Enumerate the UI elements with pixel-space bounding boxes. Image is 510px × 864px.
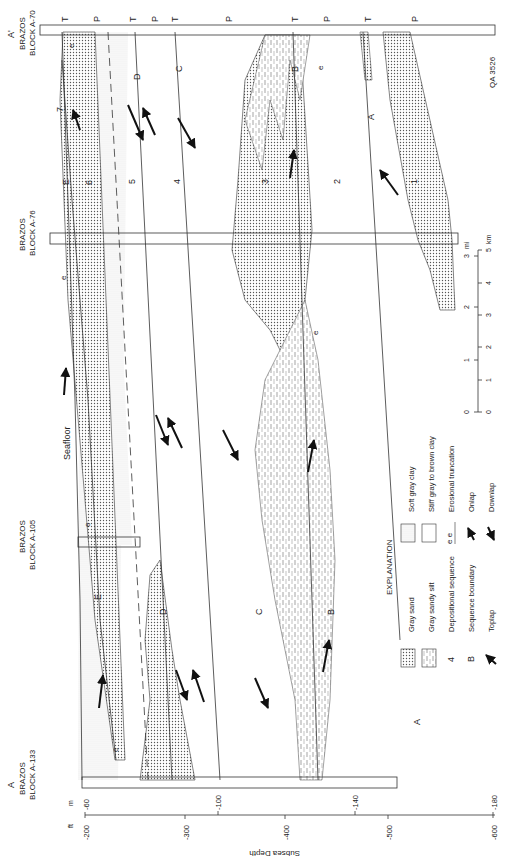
boundary-letter-C: C [174, 65, 184, 72]
svg-text:-100: -100 [214, 795, 223, 810]
svg-text:-140: -140 [351, 795, 360, 810]
downlap-arrow [128, 105, 143, 140]
svg-text:BLOCK A-70: BLOCK A-70 [28, 10, 37, 56]
label-A-76: BRAZOS BLOCK A-76 [18, 210, 37, 256]
svg-text:Toplap: Toplap [487, 610, 496, 632]
svg-text:T: T [363, 16, 373, 22]
boundary-letter-A: A [366, 114, 376, 120]
svg-text:Onlap: Onlap [467, 492, 476, 512]
svg-text:BRAZOS: BRAZOS [18, 17, 27, 50]
stiff-clay-swatch [422, 524, 436, 542]
boundary-letter-D: D [132, 73, 142, 80]
svg-text:-600: -600 [490, 825, 499, 840]
erosion-mark: e [111, 747, 120, 752]
svg-text:BRAZOS: BRAZOS [18, 218, 27, 251]
svg-text:A': A' [6, 30, 16, 38]
soft-gray-clay-swatch [401, 524, 415, 542]
boundary-letter-B2: B [326, 609, 336, 615]
onlap-arrow [380, 170, 398, 195]
svg-text:3: 3 [463, 254, 470, 258]
sequence-6: 6 [84, 180, 94, 185]
svg-text:BRAZOS: BRAZOS [18, 762, 27, 795]
svg-text:4: 4 [485, 281, 492, 285]
boundary-letter-A2: A [412, 719, 422, 725]
boundary-letter-E2: E [93, 594, 103, 600]
downlap-arrow [255, 678, 268, 708]
svg-text:5: 5 [485, 248, 492, 252]
svg-text:-60: -60 [82, 799, 91, 810]
svg-text:0: 0 [463, 410, 470, 414]
svg-text:Stiff gray to brown clay: Stiff gray to brown clay [427, 436, 436, 512]
sand-unit-4-lens [140, 560, 195, 780]
boundary-letter-D2: D [158, 608, 168, 615]
label-A: A BRAZOS BLOCK A-133 [6, 749, 37, 800]
erosion-mark: e [311, 330, 320, 335]
svg-text:2: 2 [463, 305, 470, 309]
svg-text:0: 0 [485, 410, 492, 414]
onlap-arrow [193, 670, 204, 702]
svg-text:BLOCK A-76: BLOCK A-76 [28, 210, 37, 256]
label-A-105: BRAZOS BLOCK A-105 [18, 519, 37, 570]
svg-text:BLOCK A-133: BLOCK A-133 [28, 749, 37, 800]
onlap-arrow [168, 418, 182, 448]
downlap-arrow [178, 118, 195, 148]
scale-bar: 0 1 2 3 mi 0 1 2 3 4 5 km [463, 235, 492, 415]
sand-unit-1 [360, 32, 455, 310]
cross-section-figure: Seafloor E E D D C C B B A A 7 6 5 4 3 2… [0, 0, 510, 864]
legend-title: EXPLANATION [385, 539, 394, 595]
sequence-7: 7 [55, 107, 65, 112]
boundary-letter-C2: C [254, 608, 264, 615]
onlap-arrow [64, 368, 66, 395]
depth-axis: ft m -200 -300 -400 -500 -600 -60 -100 -… [67, 795, 499, 858]
erosion-mark: e [67, 43, 76, 48]
boundary-C-line [175, 32, 220, 780]
sequence-4: 4 [172, 179, 182, 184]
svg-text:km: km [485, 235, 492, 245]
svg-text:T: T [60, 16, 70, 22]
top-markers: T P T P T P T P T P [60, 16, 420, 22]
erosion-mark: e [316, 65, 325, 70]
svg-text:Sequence boundary: Sequence boundary [467, 565, 476, 632]
svg-text:P: P [150, 16, 160, 22]
sequence-2: 2 [332, 179, 342, 184]
sequence-3: 3 [260, 179, 270, 184]
erosion-mark: e [83, 522, 92, 527]
explanation-legend: EXPLANATION Gray sand Gray sandy silt 4 … [385, 436, 496, 667]
svg-text:-200: -200 [82, 825, 91, 840]
gray-sandy-silt-swatch [422, 649, 436, 667]
svg-text:T: T [128, 16, 138, 22]
svg-text:Soft gray clay: Soft gray clay [407, 466, 416, 512]
erosion-mark: e [59, 275, 68, 280]
downlap-arrow [223, 430, 238, 460]
svg-text:Gray sand: Gray sand [407, 597, 416, 632]
boundary-letter-B: B [290, 66, 300, 72]
svg-text:Erosional truncation: Erosional truncation [447, 446, 456, 512]
svg-text:-300: -300 [182, 825, 191, 840]
svg-text:A: A [6, 782, 16, 788]
onlap-arrow [143, 108, 155, 135]
svg-text:P: P [224, 16, 234, 22]
seafloor-label: Seafloor [62, 426, 72, 460]
svg-text:T: T [170, 16, 180, 22]
svg-text:mi: mi [463, 241, 470, 249]
svg-text:Depositional sequence: Depositional sequence [447, 556, 456, 632]
svg-text:BLOCK A-105: BLOCK A-105 [28, 519, 37, 570]
ft-unit: ft [67, 824, 74, 828]
boundary-letter-E: E [61, 179, 71, 185]
svg-text:T: T [290, 16, 300, 22]
svg-text:1: 1 [485, 378, 492, 382]
svg-text:BRAZOS: BRAZOS [18, 520, 27, 553]
svg-text:P: P [410, 16, 420, 22]
svg-text:-500: -500 [385, 825, 394, 840]
svg-text:4: 4 [446, 657, 456, 662]
svg-text:-400: -400 [282, 825, 291, 840]
gray-sand-swatch [401, 649, 415, 667]
svg-text:-180: -180 [490, 795, 499, 810]
svg-text:2: 2 [485, 345, 492, 349]
svg-text:3: 3 [485, 313, 492, 317]
svg-text:B: B [466, 656, 476, 662]
downlap-legend-arrow [488, 527, 494, 540]
svg-text:P: P [322, 16, 332, 22]
sequence-1: 1 [409, 179, 419, 184]
svg-text:Downlap: Downlap [487, 483, 496, 512]
